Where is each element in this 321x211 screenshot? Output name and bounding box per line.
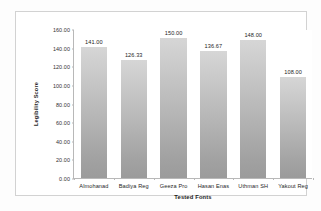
bar-value-label: 136.67 [205, 43, 223, 49]
x-axis-tick-label: Geeza Pro [160, 183, 188, 189]
chart-figure: Legibility Score Tested Fonts 0.0020.004… [0, 0, 321, 211]
x-axis-tick-mark [114, 178, 115, 180]
bar-group: 136.67Hasan Enas [194, 30, 234, 178]
y-axis-title: Legibility Score [33, 82, 39, 126]
bar-group: 126.33Badiya Reg [114, 30, 154, 178]
bar[interactable] [81, 47, 107, 178]
y-axis-tick-label: 40.00 [56, 139, 70, 145]
bar-value-label: 126.33 [125, 52, 143, 58]
bar[interactable] [200, 51, 226, 178]
x-axis-title: Tested Fonts [174, 194, 211, 200]
x-axis-tick-label: Yakout Reg [278, 183, 308, 189]
x-axis-tick-mark [194, 178, 195, 180]
y-axis-tick-label: 60.00 [56, 120, 70, 126]
bar-group: 108.00Yakout Reg [273, 30, 313, 178]
y-axis-tick-label: 120.00 [53, 64, 70, 70]
x-axis-tick-mark [154, 178, 155, 180]
x-axis-tick-label: Badiya Reg [119, 183, 149, 189]
y-axis-tick-label: 100.00 [53, 83, 70, 89]
x-axis-tick-mark [74, 178, 75, 180]
y-axis-tick-label: 80.00 [56, 102, 70, 108]
bar-value-label: 141.00 [85, 39, 103, 45]
y-axis-tick-label: 20.00 [56, 157, 70, 163]
bar[interactable] [160, 38, 186, 178]
chart-frame: Legibility Score Tested Fonts 0.0020.004… [15, 11, 307, 196]
plot-area: Tested Fonts 0.0020.0040.0060.0080.00100… [73, 30, 312, 179]
bar[interactable] [240, 40, 266, 178]
y-axis-tick-label: 0.00 [59, 176, 70, 182]
bar-value-label: 108.00 [284, 69, 302, 75]
x-axis-tick-mark [273, 178, 274, 180]
x-axis-tick-label: Uthman SH [238, 183, 268, 189]
bar-value-label: 150.00 [165, 30, 183, 36]
bar-group: 141.00Almohanad [74, 30, 114, 178]
x-axis-tick-label: Almohanad [79, 183, 108, 189]
x-axis-tick-mark [233, 178, 234, 180]
bar-group: 148.00Uthman SH [233, 30, 273, 178]
bar-value-label: 148.00 [244, 32, 262, 38]
x-axis-tick-mark [313, 178, 314, 180]
y-axis-tick-label: 140.00 [53, 46, 70, 52]
bar-group: 150.00Geeza Pro [154, 30, 194, 178]
y-axis-tick-label: 160.00 [53, 27, 70, 33]
bar[interactable] [280, 77, 306, 178]
bar[interactable] [121, 60, 147, 178]
x-axis-tick-label: Hasan Enas [198, 183, 229, 189]
